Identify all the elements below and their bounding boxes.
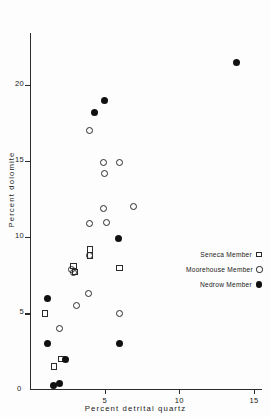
y-tick-mark [25, 237, 30, 238]
legend-item-label: Nedrow Member [200, 281, 252, 288]
legend-item-1[interactable]: Seneca Member [186, 247, 266, 262]
data-point [101, 170, 108, 177]
x-tick-mark [179, 389, 180, 394]
data-point [51, 363, 57, 369]
y-tick-label: 20 [0, 80, 24, 90]
data-point [233, 59, 240, 66]
y-tick-label-text: 5 [8, 308, 24, 316]
data-point [115, 235, 122, 242]
data-point [56, 380, 63, 387]
data-point [100, 159, 107, 166]
filled-circle-key-icon [252, 281, 266, 287]
data-point [44, 340, 51, 347]
x-axis-title: Percent detrital quartz [0, 404, 271, 413]
open-circle-key-glyph [256, 266, 262, 272]
scatter-plot-figure: 5101520 51015 0 Percent detrital quartz … [0, 0, 271, 417]
data-point [85, 290, 92, 297]
legend-item-2[interactable]: Moorehouse Member [186, 262, 266, 277]
data-point [103, 219, 110, 226]
data-point [86, 127, 93, 134]
data-point [91, 109, 98, 116]
y-axis-title: Percent dolomite [7, 135, 16, 245]
y-tick-label: 5 [0, 308, 24, 318]
y-axis-line [30, 33, 31, 390]
x-axis-line [30, 389, 262, 390]
data-point [130, 203, 137, 210]
legend-item-label: Seneca Member [200, 251, 252, 258]
y-tick-mark [25, 161, 30, 162]
data-point [100, 205, 107, 212]
y-tick-label-text: 20 [8, 80, 24, 88]
y-tick-mark [25, 313, 30, 314]
open-square-key-icon [252, 252, 266, 258]
data-point [116, 310, 123, 317]
x-tick-mark [254, 389, 255, 394]
legend-item-3[interactable]: Nedrow Member [186, 277, 266, 292]
open-square-key-glyph [256, 252, 262, 258]
data-point [56, 325, 63, 332]
open-circle-key-icon [253, 266, 266, 272]
data-point [62, 356, 69, 363]
filled-circle-key-glyph [256, 281, 262, 287]
data-point [42, 310, 48, 316]
data-point [86, 220, 93, 227]
data-point [70, 269, 77, 276]
data-point [116, 159, 123, 166]
data-point [116, 265, 122, 271]
data-point [73, 302, 80, 309]
data-point [101, 97, 108, 104]
x-tick-mark [105, 389, 106, 394]
y-tick-mark [25, 85, 30, 86]
legend-item-label: Moorehouse Member [186, 266, 253, 273]
data-point [116, 340, 123, 347]
data-point [44, 295, 51, 302]
chart-legend: Seneca MemberMoorehouse MemberNedrow Mem… [186, 247, 266, 292]
origin-tick-label: 0 [17, 384, 21, 393]
